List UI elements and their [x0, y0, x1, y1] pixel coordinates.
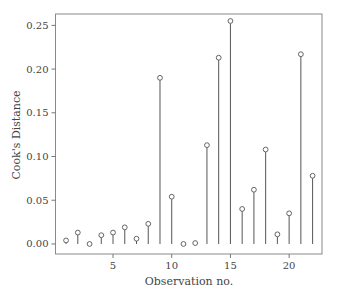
stem-series: [64, 19, 315, 247]
x-axis: 5101520: [110, 254, 296, 271]
data-point: [146, 221, 151, 244]
point-marker: [75, 230, 80, 235]
point-marker: [158, 75, 163, 80]
x-tick-label: 5: [110, 260, 116, 271]
plot-frame: [56, 14, 323, 254]
data-point: [181, 242, 186, 247]
y-tick-label: 0.20: [26, 64, 48, 75]
data-point: [134, 236, 139, 244]
point-marker: [64, 238, 69, 243]
data-point: [169, 194, 174, 244]
point-marker: [287, 211, 292, 216]
x-tick-label: 10: [165, 260, 178, 271]
data-point: [298, 52, 303, 244]
data-point: [158, 75, 163, 244]
x-tick-label: 20: [283, 260, 296, 271]
point-marker: [228, 19, 233, 24]
y-tick-label: 0.10: [26, 151, 48, 162]
data-point: [205, 143, 210, 244]
data-point: [263, 147, 268, 244]
point-marker: [252, 187, 257, 192]
point-marker: [99, 233, 104, 238]
data-point: [240, 207, 245, 244]
y-axis-title: Cook's Distance: [10, 90, 23, 179]
point-marker: [263, 147, 268, 152]
point-marker: [205, 143, 210, 148]
data-point: [310, 173, 315, 244]
y-tick-label: 0.00: [26, 238, 48, 249]
data-point: [75, 230, 80, 244]
point-marker: [181, 242, 186, 247]
x-axis-title: Observation no.: [145, 275, 233, 288]
data-point: [87, 242, 92, 247]
data-point: [122, 225, 127, 244]
y-tick-label: 0.05: [26, 195, 48, 206]
data-point: [99, 233, 104, 244]
data-point: [64, 238, 69, 244]
point-marker: [240, 207, 245, 212]
y-axis: 0.000.050.100.150.200.25: [26, 20, 55, 250]
data-point: [228, 19, 233, 244]
point-marker: [134, 236, 139, 241]
point-marker: [310, 173, 315, 178]
plot-border: [56, 14, 323, 254]
point-marker: [275, 232, 280, 237]
data-point: [287, 211, 292, 244]
data-point: [216, 55, 221, 244]
point-marker: [298, 52, 303, 57]
data-point: [193, 241, 198, 246]
data-point: [275, 232, 280, 244]
point-marker: [111, 230, 116, 235]
point-marker: [146, 221, 151, 226]
point-marker: [169, 194, 174, 199]
point-marker: [193, 241, 198, 246]
data-point: [111, 230, 116, 244]
point-marker: [216, 55, 221, 60]
point-marker: [122, 225, 127, 230]
x-tick-label: 15: [224, 260, 237, 271]
data-point: [252, 187, 257, 244]
cooks-distance-chart: 0.000.050.100.150.200.25 5101520 Cook's …: [0, 0, 339, 303]
y-tick-label: 0.25: [26, 20, 48, 31]
y-tick-label: 0.15: [26, 107, 48, 118]
point-marker: [87, 242, 92, 247]
